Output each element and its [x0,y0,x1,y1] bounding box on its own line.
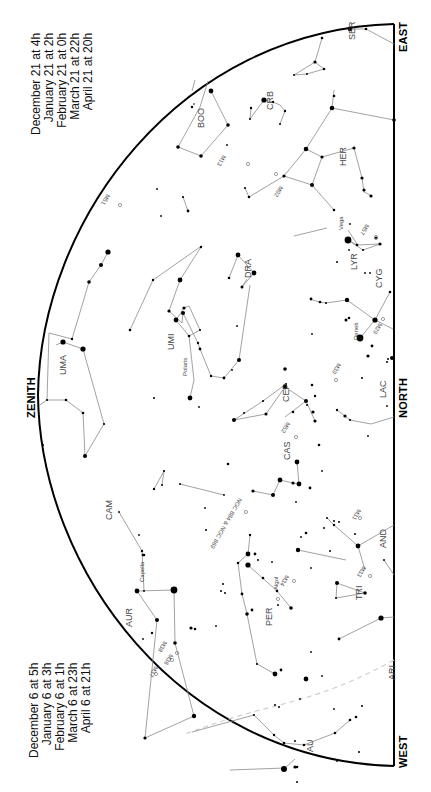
zenith-label: ZENITH [25,377,37,418]
constellation-label: TRI [354,586,364,601]
constellation-label: AND [378,529,388,548]
constellation-label: CEP [281,383,291,402]
constellation-label: BOO [196,108,206,128]
east-label: EAST [397,22,409,52]
constellation-label: HER [338,147,348,166]
east-times-table: December 21 at 4h January 21 at 2h Febru… [30,33,95,135]
star-name-label: Capella [139,562,145,582]
constellation-label: CRB [265,91,275,110]
star-name-label: Deneb [353,322,359,340]
constellation-label: AU [305,739,315,752]
sky-boundary-arc [38,24,394,766]
constellation-label: DRA [243,259,253,278]
west-time-row: April 6 at 21h [80,663,93,758]
north-label: NORTH [397,378,409,418]
star-name-label: Polaris [182,358,188,376]
constellation-label: LAC [378,380,388,398]
ecliptic-line [185,660,394,734]
constellation-label: UMI [166,334,176,351]
east-time-row: April 21 at 20h [82,33,95,135]
constellation-label: ARI [387,665,397,680]
constellation-label: CAS [282,441,292,460]
constellation-label: LYR [349,253,359,270]
constellation-lines [40,29,394,770]
constellation-label: CAM [104,500,114,520]
west-times-table: December 6 at 5h January 6 at 3h Februar… [28,663,93,758]
constellation-label: AUR [124,608,134,627]
star-name-label: Vega [338,216,344,230]
constellation-label: PER [264,607,274,626]
constellation-label: SER [347,21,357,40]
constellation-label: CYG [374,268,384,288]
stars [42,27,396,783]
constellation-label: UMA [58,355,68,375]
west-label: WEST [397,735,409,768]
